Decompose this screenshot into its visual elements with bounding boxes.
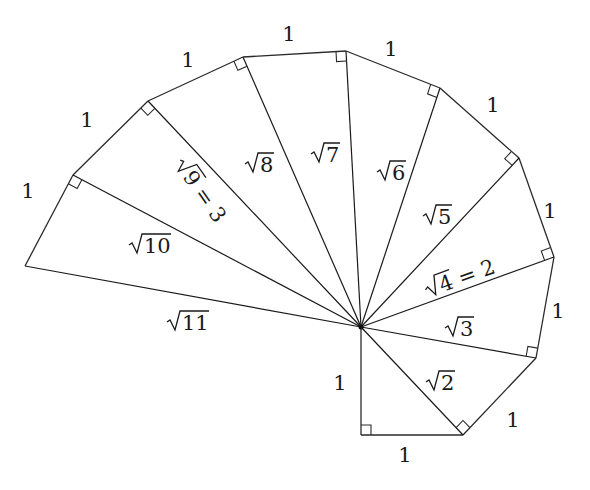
unit-label: 1 xyxy=(80,108,93,132)
center-point xyxy=(359,325,364,330)
radius-sqrt-7 xyxy=(346,51,361,327)
right-angle-marker xyxy=(505,151,512,165)
radius-sqrt-5 xyxy=(361,158,519,327)
unit-label: 1 xyxy=(398,443,411,467)
hypotenuse-radii xyxy=(25,51,554,435)
radicand: 2 xyxy=(441,371,454,395)
sqrt-label-9: 9 = 3 xyxy=(170,154,231,227)
sqrt-label-4: 4 = 2 xyxy=(422,255,498,302)
unit-label: 1 xyxy=(282,22,295,46)
radius-sqrt-8 xyxy=(243,57,361,327)
unit-edge xyxy=(463,358,536,435)
sqrt-label-6: 6 xyxy=(377,161,406,185)
radicand: 10 xyxy=(144,234,171,258)
spiral-edges xyxy=(25,51,554,435)
radicand: 8 xyxy=(260,153,273,177)
right-angle-marker xyxy=(361,425,371,435)
unit-label: 1 xyxy=(21,179,34,203)
radius-sqrt-9 xyxy=(148,101,361,327)
unit-edge xyxy=(440,88,519,158)
radicand: 7 xyxy=(326,143,339,167)
hypotenuse-labels: 234 = 256789 = 31011 xyxy=(129,143,498,395)
unit-label: 1 xyxy=(486,93,499,117)
right-angle-marker xyxy=(456,420,470,427)
radicand: 9 = 3 xyxy=(178,166,231,227)
spiral-of-theodorus: 11111111111 234 = 256789 = 31011 xyxy=(0,0,590,490)
radicand: 11 xyxy=(182,311,209,335)
sqrt-label-7: 7 xyxy=(311,143,340,167)
unit-label: 1 xyxy=(333,371,346,395)
radicand: 3 xyxy=(460,317,473,341)
radius-sqrt-3 xyxy=(361,327,536,358)
sqrt-label-5: 5 xyxy=(423,205,452,229)
unit-edge xyxy=(243,51,346,57)
radius-sqrt-6 xyxy=(361,88,440,327)
right-angle-marker xyxy=(336,52,347,62)
sqrt-label-10: 10 xyxy=(129,234,171,258)
unit-edge xyxy=(148,57,243,101)
unit-label: 1 xyxy=(543,199,556,223)
unit-label: 1 xyxy=(551,299,564,323)
unit-label: 1 xyxy=(506,408,519,432)
unit-label: 1 xyxy=(384,37,397,61)
radicand: 6 xyxy=(392,161,405,185)
unit-length-labels: 11111111111 xyxy=(21,22,564,467)
sqrt-label-11: 11 xyxy=(167,311,209,335)
radicand: 4 = 2 xyxy=(436,255,498,297)
radicand: 5 xyxy=(438,205,451,229)
unit-label: 1 xyxy=(181,48,194,72)
right-angle-marker xyxy=(141,108,155,115)
sqrt-label-8: 8 xyxy=(245,153,274,177)
sqrt-label-2: 2 xyxy=(426,371,455,395)
sqrt-label-3: 3 xyxy=(445,317,474,341)
